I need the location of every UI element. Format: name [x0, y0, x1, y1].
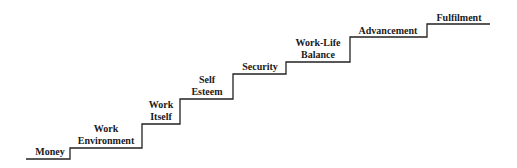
- step-label-fulfilment: Fulfilment: [430, 12, 488, 24]
- step-label-line: Advancement: [352, 25, 424, 37]
- step-label-security: Security: [235, 61, 285, 73]
- step-label-line: Balance: [288, 49, 348, 61]
- step-label-advancement: Advancement: [352, 25, 424, 37]
- step-label-line: Esteem: [182, 86, 232, 98]
- step-label-line: Work: [72, 123, 140, 135]
- step-label-line: Fulfilment: [430, 12, 488, 24]
- step-label-line: Work-Life: [288, 37, 348, 49]
- step-label-line: Security: [235, 61, 285, 73]
- step-label-line: Environment: [72, 135, 140, 147]
- step-label-self-esteem: Self Esteem: [182, 74, 232, 98]
- step-label-work-environment: Work Environment: [72, 123, 140, 147]
- step-label-work-life-balance: Work-Life Balance: [288, 37, 348, 61]
- step-label-line: Self: [182, 74, 232, 86]
- step-label-line: Work: [143, 99, 179, 111]
- step-label-line: Itself: [143, 111, 179, 123]
- step-label-line: Money: [35, 146, 64, 157]
- step-label-money: Money: [30, 146, 70, 158]
- step-label-work-itself: Work Itself: [143, 99, 179, 123]
